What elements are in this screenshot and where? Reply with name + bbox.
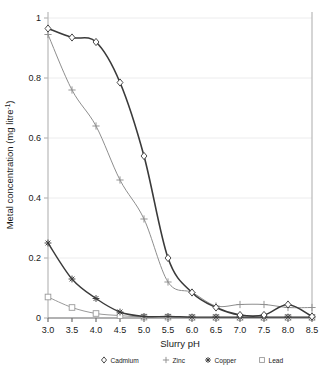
x-tick-label: 6.5 [210,325,223,335]
x-tick-label: 4.0 [90,325,103,335]
legend-label: Copper [215,357,237,365]
gridlines [48,18,312,318]
series-line [48,35,312,308]
x-tick-label: 3.0 [42,325,55,335]
legend-item-copper: Copper [205,357,237,365]
x-tick-label: 5.0 [138,325,151,335]
y-axis-title: Metal concentration (mg litre-1) [4,101,15,230]
y-tick-label: 0.2 [28,253,41,263]
data-point-square-marker [260,358,265,363]
x-axis-ticks: 3.03.54.04.55.05.56.06.57.07.58.08.5 [42,318,319,335]
data-point-square-marker [69,305,75,311]
y-tick-label: 0.4 [28,193,41,203]
x-tick-label: 5.5 [162,325,175,335]
data-point-asterisk-marker [141,313,148,320]
data-point-asterisk-marker [213,314,220,321]
figure-container: 00.20.40.60.81 3.03.54.04.55.05.56.06.57… [0,0,330,385]
data-point-plus-marker [308,304,315,311]
y-tick-label: 0 [36,313,41,323]
x-tick-label: 7.0 [234,325,247,335]
x-tick-label: 3.5 [66,325,79,335]
data-point-plus-marker [68,86,75,93]
chart-legend: CadmiumZincCopperLead [101,357,283,365]
series-cadmium [45,25,315,320]
data-point-square-marker [93,311,99,317]
data-point-asterisk-marker [205,357,211,363]
legend-label: Zinc [173,357,186,364]
data-point-plus-marker [92,122,99,129]
data-point-asterisk-marker [69,276,76,283]
legend-item-zinc: Zinc [163,357,186,364]
x-axis-title: Slurry pH [160,338,200,349]
series-zinc [44,31,315,311]
data-point-diamond-marker [117,79,123,86]
data-point-asterisk-marker [189,314,196,321]
axis-frame [48,12,312,318]
data-point-plus-marker [140,215,147,222]
data-point-plus-marker [163,357,169,363]
data-point-diamond-marker [165,254,171,261]
x-tick-label: 8.5 [306,325,319,335]
series-line [48,29,312,317]
legend-item-lead: Lead [260,357,284,364]
x-tick-label: 8.0 [282,325,295,335]
data-point-diamond-marker [69,34,75,41]
series-line [48,297,312,317]
y-tick-label: 0.8 [28,73,41,83]
y-tick-label: 0.6 [28,133,41,143]
data-point-plus-marker [116,176,123,183]
metal-concentration-vs-ph-chart: 00.20.40.60.81 3.03.54.04.55.05.56.06.57… [0,0,330,385]
data-point-asterisk-marker [165,313,172,320]
data-point-diamond-marker [45,25,51,32]
legend-label: Cadmium [111,357,140,364]
data-point-asterisk-marker [117,309,124,316]
y-tick-label: 1 [36,13,41,23]
x-tick-label: 4.5 [114,325,127,335]
data-point-diamond-marker [141,152,147,159]
y-axis-ticks: 00.20.40.60.81 [28,13,48,323]
data-point-diamond-marker [101,357,106,363]
data-point-asterisk-marker [93,295,100,302]
data-point-asterisk-marker [285,314,292,321]
x-tick-label: 7.5 [258,325,271,335]
data-point-plus-marker [164,278,171,285]
data-point-square-marker [45,294,51,300]
legend-item-cadmium: Cadmium [101,357,139,364]
data-series-layer [44,25,315,321]
legend-label: Lead [269,357,284,364]
data-point-asterisk-marker [45,240,52,247]
x-tick-label: 6.0 [186,325,199,335]
data-point-plus-marker [260,301,267,308]
data-point-plus-marker [236,301,243,308]
